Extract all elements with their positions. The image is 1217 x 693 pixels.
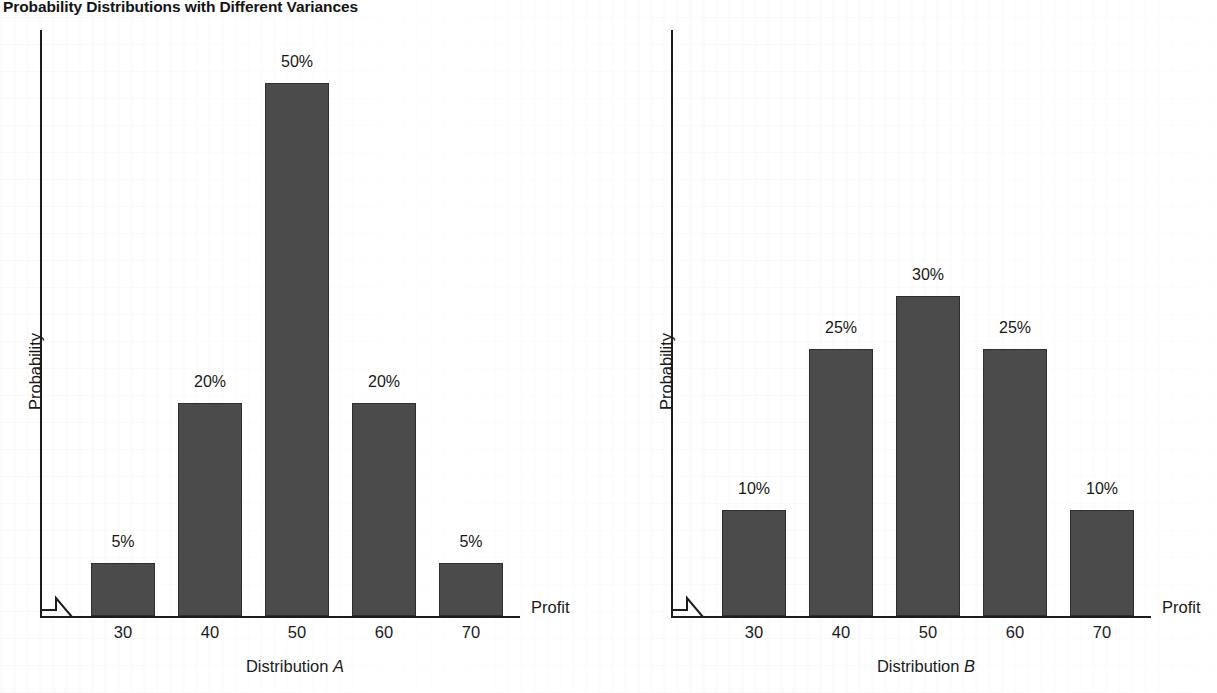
bar-value-a-70: 5% <box>439 533 503 551</box>
panel-caption-b: Distribution B <box>791 657 1061 676</box>
x-tick-label-a-4: 70 <box>439 623 503 642</box>
x-tick-label-a-0: 30 <box>91 623 155 642</box>
bar-a-30 <box>91 563 155 616</box>
bar-a-50 <box>265 83 329 616</box>
bar-value-b-60: 25% <box>983 319 1047 337</box>
bar-value-b-50: 30% <box>896 266 960 284</box>
x-axis-label-a: Profit <box>531 598 570 617</box>
x-tick-label-a-2: 50 <box>265 623 329 642</box>
panel-caption-a-prefix: Distribution <box>246 657 333 675</box>
y-axis-label-b: Probability <box>657 333 676 410</box>
bar-value-a-50: 50% <box>265 53 329 71</box>
panel-caption-a-letter: A <box>333 657 344 675</box>
bar-b-30 <box>722 510 786 616</box>
axis-break-zigzag-icon-b <box>669 586 725 626</box>
bar-value-a-40: 20% <box>178 373 242 391</box>
bar-a-60 <box>352 403 416 616</box>
bar-a-40 <box>178 403 242 616</box>
x-tick-label-b-0: 30 <box>722 623 786 642</box>
bar-value-b-40: 25% <box>809 319 873 337</box>
x-axis-line-a <box>40 616 520 618</box>
chart-panel-distribution-b: Probability Profit 10% 25% 30% 25% 10% 3… <box>631 0 1217 693</box>
x-tick-label-b-2: 50 <box>896 623 960 642</box>
bar-value-b-30: 10% <box>722 480 786 498</box>
x-tick-label-a-1: 40 <box>178 623 242 642</box>
panel-caption-b-prefix: Distribution <box>877 657 964 675</box>
bar-b-40 <box>809 349 873 616</box>
x-axis-line-b <box>671 616 1151 618</box>
axis-break-zigzag-icon-a <box>38 586 94 626</box>
x-axis-label-b: Profit <box>1162 598 1201 617</box>
bar-value-b-70: 10% <box>1070 480 1134 498</box>
y-axis-line-b <box>671 30 673 617</box>
panel-caption-b-letter: B <box>964 657 975 675</box>
bar-a-70 <box>439 563 503 616</box>
x-tick-label-b-4: 70 <box>1070 623 1134 642</box>
x-tick-label-b-1: 40 <box>809 623 873 642</box>
y-axis-label-a: Probability <box>26 333 45 410</box>
panel-caption-a: Distribution A <box>160 657 430 676</box>
bar-b-60 <box>983 349 1047 616</box>
bar-value-a-60: 20% <box>352 373 416 391</box>
x-tick-label-a-3: 60 <box>352 623 416 642</box>
y-axis-line-a <box>40 30 42 617</box>
bar-b-50 <box>896 296 960 616</box>
x-tick-label-b-3: 60 <box>983 623 1047 642</box>
chart-panel-distribution-a: Probability Profit 5% 20% 50% 20% 5% 30 … <box>0 0 608 693</box>
bar-b-70 <box>1070 510 1134 616</box>
bar-value-a-30: 5% <box>91 533 155 551</box>
